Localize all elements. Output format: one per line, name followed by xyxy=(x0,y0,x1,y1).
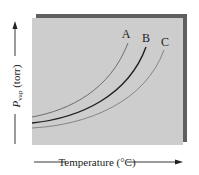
vapor-pressure-chart: A B C Pvap (torr) Temperature (°C) xyxy=(0,0,199,175)
curve-label-c: C xyxy=(161,35,169,49)
x-axis-label: Temperature (°C) xyxy=(58,156,136,169)
curve-label-b: B xyxy=(142,31,150,45)
y-axis-label: Pvap (torr) xyxy=(10,64,24,108)
y-axis-arrow-icon xyxy=(13,21,18,29)
x-axis-arrow-icon xyxy=(175,160,183,165)
curve-label-a: A xyxy=(122,27,131,41)
